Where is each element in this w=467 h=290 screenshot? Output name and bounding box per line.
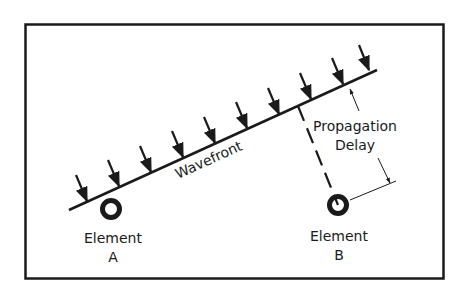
wavefront-line — [69, 70, 377, 210]
arrow-icon — [300, 73, 311, 99]
wavefront-label: Wavefront — [173, 137, 245, 181]
arrow-icon — [204, 117, 215, 143]
delay-extension-line — [350, 181, 396, 200]
delay-upper-arrow-icon — [350, 89, 359, 111]
element-b-label-line1: Element — [310, 228, 368, 244]
delay-lower-arrow-icon — [378, 158, 390, 183]
arrow-icon — [76, 175, 87, 201]
element-b-label-line2: B — [334, 247, 344, 263]
arrow-icon — [140, 146, 151, 172]
element-a-icon — [103, 201, 120, 218]
propagation-delay-label-line1: Propagation — [313, 118, 397, 134]
arrow-icon — [236, 102, 247, 128]
element-a-label-line1: Element — [84, 230, 142, 246]
phased-array-diagram: Wavefront Propagation Delay Element A El… — [0, 0, 467, 290]
arrow-icon — [108, 160, 119, 186]
arrow-icon — [268, 88, 279, 114]
propagation-delay-label-line2: Delay — [335, 137, 375, 153]
arrow-icon — [332, 58, 343, 84]
arrow-icon — [172, 131, 183, 157]
element-a-label-line2: A — [108, 249, 118, 265]
arrow-icon — [359, 45, 369, 70]
